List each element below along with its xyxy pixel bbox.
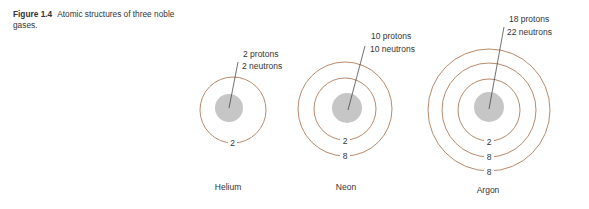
- atom-name: Helium: [215, 182, 241, 192]
- shell-1-electrons: 2: [343, 136, 348, 146]
- atom-name: Argon: [477, 185, 500, 195]
- nucleus: [474, 92, 504, 122]
- atom-name: Neon: [336, 182, 357, 192]
- nucleus: [332, 93, 362, 123]
- atom-helium: 2 protons 2 neutrons 2 Helium: [200, 49, 282, 192]
- shell-1-electrons: 2: [487, 137, 492, 147]
- nucleus-label-protons: 18 protons: [509, 14, 549, 24]
- nucleus-label-neutrons: 2 neutrons: [242, 61, 282, 71]
- shell-2-electrons: 8: [487, 152, 492, 162]
- nucleus-label-protons: 10 protons: [371, 31, 411, 41]
- atomic-structures-diagram: 2 protons 2 neutrons 2 Helium 10 protons…: [0, 0, 589, 209]
- nucleus-label-protons: 2 protons: [243, 49, 278, 59]
- shell-1-electrons: 2: [230, 138, 235, 148]
- shell-3-electrons: 8: [487, 167, 492, 177]
- nucleus-label-neutrons: 10 neutrons: [370, 44, 415, 54]
- atom-neon: 10 protons 10 neutrons 2 8 Neon: [298, 31, 415, 192]
- atom-argon: 18 protons 22 neutrons 2 8 8 Argon: [428, 14, 552, 195]
- shell-2-electrons: 8: [343, 151, 348, 161]
- nucleus-label-neutrons: 22 neutrons: [507, 27, 552, 37]
